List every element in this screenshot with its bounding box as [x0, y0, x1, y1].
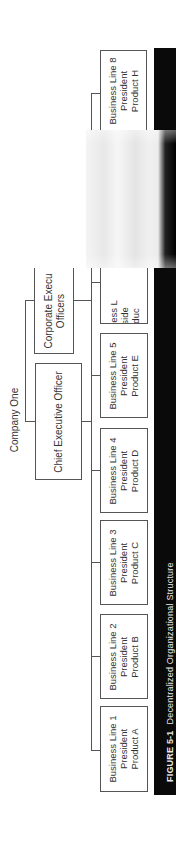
stub-bl2 — [91, 656, 100, 657]
connector-root-stub-ceo — [25, 421, 35, 422]
stub-bl6 — [91, 282, 100, 283]
business-line-8-box: Business Line 8 President Product H — [100, 50, 147, 131]
connector-ceo-bus — [82, 421, 91, 422]
business-line-3-box: Business Line 3 President Product C — [100, 520, 148, 605]
stub-bl8 — [91, 93, 100, 94]
scan-blur-artifact — [86, 130, 176, 268]
business-line-4-box: Business Line 4 President Product D — [100, 428, 148, 513]
corporate-exec-line2: Officers — [54, 273, 66, 348]
figure-number: FIGURE 5-1 — [165, 730, 175, 782]
figure-caption: FIGURE 5-1Decentralized Organizational S… — [165, 562, 175, 782]
connector-cxo-bus — [74, 300, 91, 301]
business-line-1-box: Business Line 1 President Product A — [100, 706, 148, 792]
business-line-2-box: Business Line 2 President Product B — [100, 614, 148, 699]
connector-root-exec — [25, 300, 26, 422]
figure-title: Decentralized Organizational Structure — [165, 562, 175, 724]
stub-bl3 — [91, 562, 100, 563]
corporate-exec-box: Corporate Execu Officers — [34, 268, 74, 354]
ceo-box: Chief Executive Officer — [35, 363, 82, 480]
corporate-exec-line1: Corporate Execu — [43, 273, 55, 348]
company-one-label: Company One — [4, 380, 26, 460]
business-line-5-box: Business Line 5 President Product E — [100, 333, 148, 418]
stub-bl4 — [91, 470, 100, 471]
stub-bl5 — [91, 375, 100, 376]
business-line-6-box-partial: Business L Preside Produc — [100, 268, 148, 324]
stub-bl1 — [91, 750, 100, 751]
